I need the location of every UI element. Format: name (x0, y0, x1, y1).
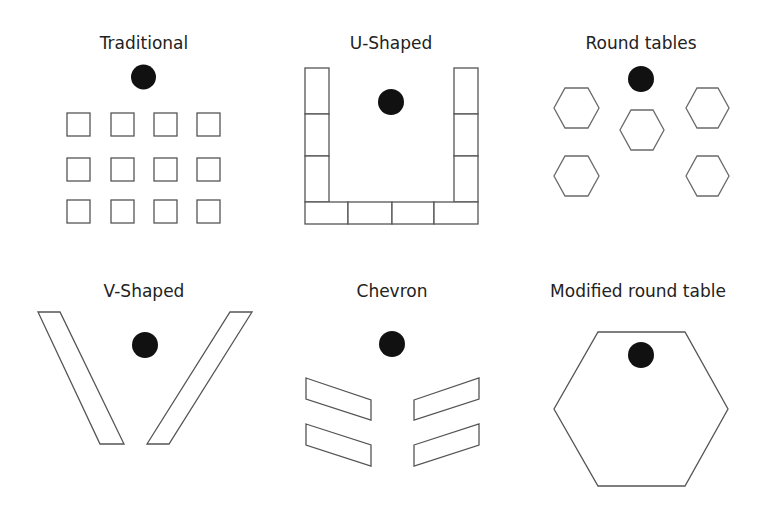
instructor-icon (628, 66, 654, 92)
table (305, 156, 329, 202)
panel-u-shaped: U-Shaped (305, 33, 478, 224)
desk (197, 113, 220, 136)
instructor-icon (628, 342, 654, 368)
table (454, 114, 478, 156)
panel-title-u-shaped: U-Shaped (350, 33, 433, 53)
panel-round-tables: Round tables (554, 33, 729, 196)
desk (111, 158, 134, 181)
table (348, 202, 392, 224)
panel-v-shaped: V-Shaped (38, 281, 252, 444)
u-right-tables (454, 68, 478, 202)
table (434, 202, 478, 224)
desk (67, 158, 90, 181)
v-right-table (147, 312, 252, 444)
panel-chevron: Chevron (306, 281, 479, 466)
round-table (686, 156, 729, 196)
table (305, 202, 348, 224)
panel-traditional: Traditional (67, 33, 220, 223)
desk (154, 158, 177, 181)
panel-title-round-tables: Round tables (585, 33, 696, 53)
desk (197, 200, 220, 223)
instructor-icon (132, 332, 158, 358)
round-table (620, 110, 664, 150)
panel-title-modified-round-table: Modified round table (550, 281, 726, 301)
desk (67, 200, 90, 223)
seating-arrangements-diagram: Traditional U-Shaped (0, 0, 771, 512)
desk (111, 200, 134, 223)
chevron-right-table (414, 424, 479, 466)
desk-grid (67, 113, 220, 223)
panel-title-chevron: Chevron (357, 281, 428, 301)
table (392, 202, 434, 224)
chevron-left-table (306, 424, 371, 466)
u-bottom-tables (305, 202, 478, 224)
v-left-table (38, 312, 124, 444)
panel-modified-round-table: Modified round table (550, 281, 728, 486)
desk (154, 200, 177, 223)
desk (197, 158, 220, 181)
table (454, 156, 478, 202)
instructor-icon (378, 89, 404, 115)
round-table (686, 88, 729, 128)
chevron-left-table (306, 378, 371, 420)
round-table (554, 88, 599, 128)
round-table (554, 156, 599, 196)
instructor-icon (131, 65, 156, 90)
u-left-tables (305, 68, 329, 202)
table (305, 68, 329, 114)
desk (154, 113, 177, 136)
instructor-icon (379, 331, 405, 357)
chevron-right-table (414, 378, 479, 420)
table (305, 114, 329, 156)
panel-title-traditional: Traditional (99, 33, 189, 53)
panel-title-v-shaped: V-Shaped (104, 281, 185, 301)
desk (67, 113, 90, 136)
table (454, 68, 478, 114)
desk (111, 113, 134, 136)
